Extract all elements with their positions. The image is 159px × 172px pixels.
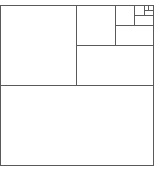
recursive-subdivision-diagram	[0, 0, 159, 172]
split-lines	[1, 6, 154, 86]
